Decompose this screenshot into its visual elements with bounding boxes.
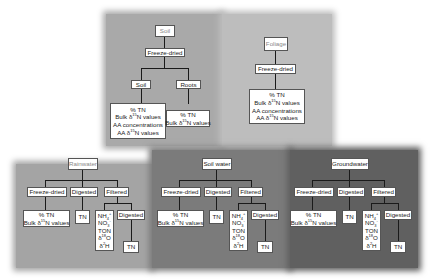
output-aa-conc: AA concentrations (113, 121, 163, 129)
output-bulk-d15n: Bulk δ15N values (254, 99, 300, 107)
rainwater-title: Rainwater (68, 158, 98, 170)
rainwater-freeze-outputs: % TN Bulk δ15N values (23, 210, 70, 227)
foliage-title: Foliage (264, 37, 288, 51)
rainwater-digested: Digested (70, 187, 98, 197)
output-bulk-d15n: Bulk δ15N values (158, 219, 204, 227)
rainwater-filtered-tn: TN (123, 241, 139, 253)
soil-soil-outputs: % TN Bulk δ15N values AA concentrations … (110, 103, 166, 139)
groundwater-digested: Digested (337, 187, 365, 197)
output-d2h: δ2H (233, 242, 243, 250)
rainwater-tn: TN (75, 210, 90, 224)
output-no3: NO3- (232, 219, 245, 227)
output-aa-d15n: AA δ15N values (256, 114, 298, 122)
soil-water-digested: Digested (204, 187, 232, 197)
output-bulk-d15n: Bulk δ15N values (291, 219, 337, 227)
output-d2h: δ2H (366, 242, 376, 250)
soil-water-title: Soil water (202, 158, 232, 170)
groundwater-filtered: Filtered (371, 187, 396, 197)
foliage-freeze-dried: Freeze-dried (255, 64, 296, 74)
output-aa-conc: AA concentrations (252, 107, 302, 115)
soil-water-filtered-tn: TN (257, 241, 273, 253)
rainwater-filtered: Filtered (104, 187, 129, 197)
rainwater-filtered-outputs: NH4+ NO3- TON δ18O δ2H (95, 210, 114, 251)
output-no3: NO3- (365, 219, 378, 227)
foliage-panel (222, 14, 332, 146)
output-bulk-d15n: Bulk δ15N values (165, 119, 211, 127)
output-bulk-d15n: Bulk δ15N values (115, 113, 161, 121)
groundwater-title: Groundwater (331, 158, 369, 170)
output-no3: NO3- (98, 219, 111, 227)
output-bulk-d15n: Bulk δ15N values (24, 219, 70, 227)
soil-water-freeze-outputs: % TN Bulk δ15N values (157, 210, 204, 227)
groundwater-filtered-outputs: NH4+ NO3- TON δ18O δ2H (362, 210, 381, 251)
rainwater-filtered-digested: Digested (117, 210, 145, 220)
soil-freeze-dried: Freeze-dried (145, 48, 185, 57)
groundwater-tn: TN (342, 210, 357, 224)
output-d2h: δ2H (99, 242, 109, 250)
groundwater-freeze-dried: Freeze-dried (294, 187, 334, 197)
groundwater-filtered-digested: Digested (384, 210, 412, 220)
soil-water-filtered: Filtered (238, 187, 263, 197)
soil-water-tn: TN (209, 210, 224, 224)
rainwater-freeze-dried: Freeze-dried (27, 187, 67, 197)
groundwater-filtered-tn: TN (390, 241, 406, 253)
foliage-outputs: % TN Bulk δ15N values AA concentrations … (249, 89, 305, 124)
soil-water-filtered-digested: Digested (251, 210, 279, 220)
soil-roots-outputs: % TN Bulk δ15N values (166, 110, 210, 127)
soil-branch-soil: Soil (131, 80, 151, 89)
output-aa-d15n: AA δ15N values (117, 129, 159, 137)
groundwater-freeze-outputs: % TN Bulk δ15N values (290, 210, 337, 227)
soil-branch-roots: Roots (176, 80, 201, 89)
soil-water-freeze-dried: Freeze-dried (161, 187, 201, 197)
soil-title: Soil (155, 25, 175, 37)
soil-water-filtered-outputs: NH4+ NO3- TON δ18O δ2H (229, 210, 248, 251)
